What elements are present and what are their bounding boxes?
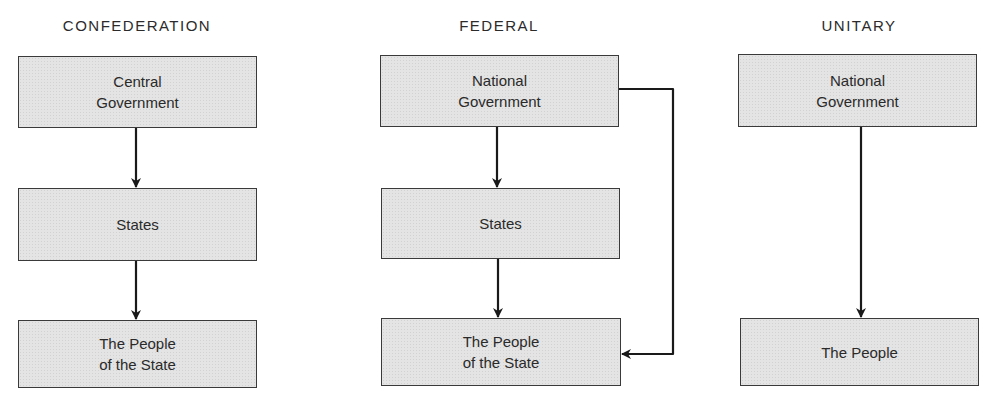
- arrows-layer: [0, 0, 989, 395]
- bypass-arrow-icon: [619, 89, 673, 354]
